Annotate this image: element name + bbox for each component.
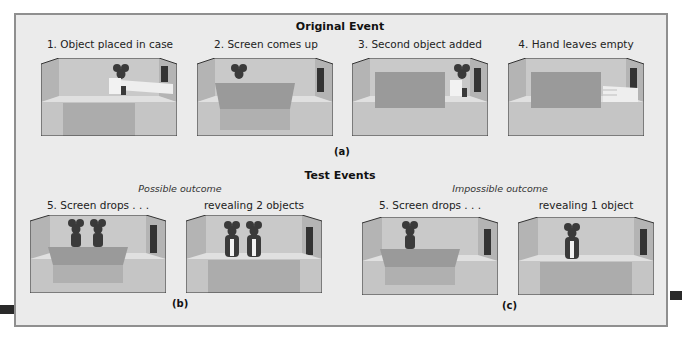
section-a-label: (a) [334,146,350,157]
possible-outcome-label: Possible outcome [120,183,240,194]
panel-2-scene [197,58,333,136]
open-hand-icon [603,86,638,102]
panel-3-scene [352,58,488,136]
panel-4-caption: 4. Hand leaves empty [508,38,644,50]
panel-c1-scene [362,217,498,295]
mouse-toy-icon [224,221,240,257]
panel-3-caption: 3. Second object added [352,38,488,50]
panel-b2-caption: revealing 2 objects [186,199,322,211]
left-edge-marker [0,305,14,314]
panel-c2-scene [518,217,654,295]
section-b-label: (b) [172,298,188,309]
panel-1-caption: 1. Object placed in case [42,38,178,50]
mouse-toy-icon [246,221,262,257]
impossible-outcome-label: Impossible outcome [440,183,560,194]
panel-b1-caption: 5. Screen drops . . . [30,199,166,211]
mouse-toy-icon [564,223,580,259]
panel-1-scene [41,58,177,136]
test-events-title: Test Events [290,169,390,182]
panel-b1-scene [30,215,166,293]
section-a-title: Original Event [290,20,390,33]
panel-b2-scene [186,215,322,293]
panel-c1-caption: 5. Screen drops . . . [362,199,498,211]
panel-c2-caption: revealing 1 object [518,199,654,211]
section-c-label: (c) [502,300,517,311]
panel-4-scene [508,58,644,136]
right-edge-marker [670,291,682,300]
panel-2-caption: 2. Screen comes up [198,38,334,50]
